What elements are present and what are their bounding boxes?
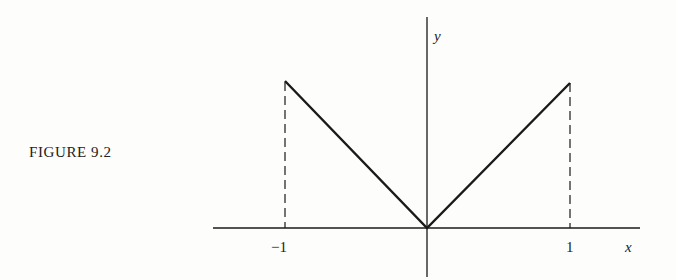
y-axis-label: y xyxy=(434,28,441,45)
x-tick-label-neg1: −1 xyxy=(271,239,287,256)
x-tick-label-pos1: 1 xyxy=(566,239,574,256)
x-axis-label: x xyxy=(625,239,632,256)
plot-area xyxy=(0,0,676,280)
